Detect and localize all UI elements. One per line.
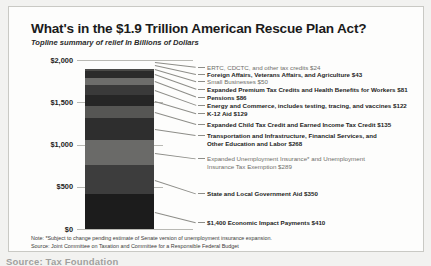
segment-label: Expanded Unemployment Insurance* and Une… — [207, 155, 377, 172]
leader-dash — [198, 105, 205, 106]
y-axis-tick: $2,000 — [21, 56, 73, 65]
leader-line — [155, 112, 196, 125]
bar-segment — [85, 69, 154, 71]
chart-note: Note: *Subject to change pending estimat… — [31, 235, 272, 241]
chart-source: Source: Joint Committee on Taxation and … — [31, 243, 239, 249]
bar-segment — [85, 165, 154, 195]
segment-label: State and Local Government Aid $350 — [207, 190, 318, 198]
leader-dash — [198, 67, 205, 68]
leader-dash — [198, 81, 205, 82]
leader-dash — [198, 74, 205, 75]
segment-label: Expanded Child Tax Credit and Earned Inc… — [207, 121, 391, 129]
leader-dash — [198, 135, 205, 136]
y-axis-tick: $1,500 — [21, 98, 73, 107]
leader-line — [155, 212, 196, 223]
leader-dash — [198, 89, 205, 90]
leader-dash — [198, 193, 205, 194]
y-axis-tick: $500 — [21, 182, 73, 191]
page-caption: Source: Tax Foundation — [6, 256, 118, 266]
bar-segment — [85, 78, 154, 85]
segment-label: $1,400 Economic Impact Payments $410 — [207, 219, 325, 227]
bar-segment — [85, 85, 154, 95]
screenshot-canvas: What's in the $1.9 Trillion American Res… — [0, 0, 431, 266]
y-axis-tick: $0 — [21, 225, 73, 234]
segment-label: K-12 Aid $129 — [207, 110, 247, 118]
bar-segment — [85, 95, 154, 106]
bar-segment — [85, 118, 154, 141]
bar-segment — [85, 194, 154, 229]
leader-dash — [198, 124, 205, 125]
leader-dash — [198, 113, 205, 114]
leader-line — [155, 81, 196, 97]
segment-label: Transportation and Infrastructure, Finan… — [207, 132, 377, 149]
gridline — [77, 229, 193, 230]
leader-line — [155, 74, 196, 90]
bar-segment — [85, 140, 154, 164]
leader-dash — [198, 158, 205, 159]
leader-dash — [198, 222, 205, 223]
stacked-bar-plot: $0$500$1,000$1,500$2,000 ERTC, CDCTC, an… — [9, 7, 425, 253]
stacked-bar — [85, 69, 154, 229]
chart-card: What's in the $1.9 Trillion American Res… — [8, 6, 424, 252]
bar-segment — [85, 106, 154, 117]
leader-line — [155, 153, 196, 159]
leader-line — [155, 129, 196, 136]
gridline — [77, 60, 193, 61]
y-axis-tick: $1,000 — [21, 140, 73, 149]
leader-dash — [198, 97, 205, 98]
bar-segment — [85, 71, 154, 78]
